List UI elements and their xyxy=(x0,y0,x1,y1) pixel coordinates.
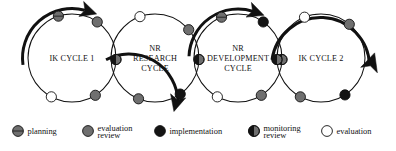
nr-development-cycle-node-evaluation-marker xyxy=(212,92,222,102)
ik-cycle-2-node-monitoring-review-marker xyxy=(272,54,282,64)
ik-cycle-1-node-evaluation-review-marker xyxy=(92,17,102,27)
legend-label: evaluation xyxy=(337,127,373,136)
legend-label: review xyxy=(98,131,122,140)
nr-research-cycle-node-evaluation-review-marker xyxy=(184,25,194,35)
cycle-label-line: CYCLE xyxy=(141,64,169,73)
cycles-diagram: IK CYCLE 1NRRESEARCHCYCLENRDEVELOPMENTCY… xyxy=(0,0,396,151)
ik-cycle-1-node-monitoring-review-marker xyxy=(111,54,121,64)
legend-implementation-marker xyxy=(155,126,166,137)
legend-planning-marker xyxy=(13,126,24,137)
legend-monitoring-review-marker xyxy=(249,126,260,137)
legend-item-implementation[interactable]: implementation xyxy=(155,126,223,137)
legend-evaluation-marker xyxy=(322,126,333,137)
legend-item-evaluation-review[interactable]: evaluationreview xyxy=(83,124,134,141)
cycle-label-nr-research-cycle: NRRESEARCHCYCLE xyxy=(133,44,177,72)
ik-cycle-2-node-evaluation-review-marker xyxy=(295,92,305,102)
cycle-label-line: NR xyxy=(232,44,244,53)
nr-research-cycle-node-monitoring-review-marker xyxy=(194,54,204,64)
ik-cycle-2-node-evaluation-marker xyxy=(299,12,309,22)
cycle-label-line: IK CYCLE 1 xyxy=(49,54,94,63)
ik-cycle-2-node-implementation-marker xyxy=(340,90,350,100)
ik-cycle-1-node-evaluation-marker xyxy=(46,92,56,102)
legend-item-planning[interactable]: planning xyxy=(13,126,58,137)
nr-development-cycle-node-evaluation-review-marker xyxy=(256,90,266,100)
nr-research-cycle-node-evaluation-review-marker xyxy=(133,94,143,104)
ik-cycle-1-node-planning-marker xyxy=(53,11,63,21)
cycle-label-line: RESEARCH xyxy=(133,54,177,63)
nr-research-cycle-node-implementation-marker xyxy=(175,89,185,99)
cycle-label-line: CYCLE xyxy=(224,64,252,73)
cycle-label-line: IK CYCLE 2 xyxy=(298,54,343,63)
nr-development-cycle-node-planning-marker xyxy=(216,12,226,22)
nr-development-cycle-node-implementation-marker xyxy=(258,17,268,27)
legend: planningevaluationreviewimplementationmo… xyxy=(13,124,373,141)
legend-label: planning xyxy=(28,127,58,136)
cycle-label-line: NR xyxy=(149,44,161,53)
cycle-label-ik-cycle-1: IK CYCLE 1 xyxy=(49,54,94,63)
legend-item-evaluation[interactable]: evaluation xyxy=(322,126,373,137)
legend-item-monitoring-review[interactable]: monitoringreview xyxy=(249,124,302,141)
cycle-label-nr-development-cycle: NRDEVELOPMENTCYCLE xyxy=(207,44,269,72)
ik-cycle-1-node-evaluation-review-marker xyxy=(90,90,100,100)
legend-label: review xyxy=(264,131,288,140)
cycle-label-ik-cycle-2: IK CYCLE 2 xyxy=(298,54,343,63)
nr-research-cycle-node-evaluation-marker xyxy=(135,12,145,22)
legend-label: implementation xyxy=(170,127,223,136)
diagram-canvas: IK CYCLE 1NRRESEARCHCYCLENRDEVELOPMENTCY… xyxy=(0,0,396,151)
cycle-label-line: DEVELOPMENT xyxy=(207,54,269,63)
legend-evaluation-review-marker xyxy=(83,126,94,137)
ik-cycle-2-node-evaluation-review-marker xyxy=(344,19,354,29)
